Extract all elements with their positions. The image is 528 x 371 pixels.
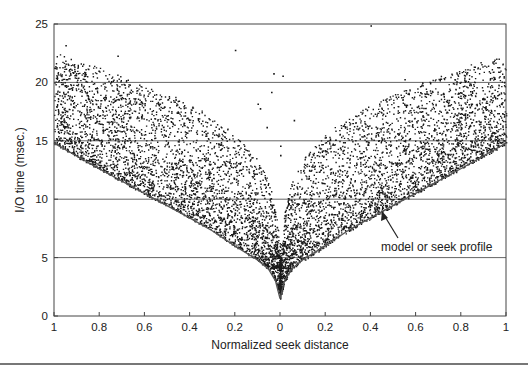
y-axis-label: I/O time (msec.)	[13, 127, 27, 212]
x-axis-ticks: 10.80.60.40.200.20.40.60.81	[51, 312, 509, 333]
x-tick-label: 0	[277, 321, 283, 333]
x-tick-label: 0.8	[91, 321, 107, 333]
horizontal-gridlines	[54, 82, 506, 257]
annotation-label: model or seek profile	[381, 240, 493, 254]
x-tick-label: 1	[503, 321, 509, 333]
x-tick-label: 0.6	[408, 321, 424, 333]
x-tick-label: 1	[51, 321, 57, 333]
y-tick-label: 20	[35, 76, 48, 88]
x-tick-label: 0.2	[227, 321, 243, 333]
y-tick-label: 25	[35, 18, 48, 30]
annotation: model or seek profile	[381, 211, 493, 254]
x-axis-label: Normalized seek distance	[211, 338, 349, 352]
x-tick-label: 0.8	[453, 321, 469, 333]
y-tick-label: 5	[42, 252, 48, 264]
y-tick-label: 0	[42, 310, 48, 322]
y-tick-label: 10	[35, 193, 48, 205]
x-tick-label: 0.6	[136, 321, 152, 333]
y-axis-ticks: 0510152025	[35, 18, 58, 322]
x-tick-label: 0.2	[317, 321, 333, 333]
scatter-chart: 10.80.60.40.200.20.40.60.81 0510152025 N…	[0, 0, 528, 371]
y-tick-label: 15	[35, 135, 48, 147]
scatter-points	[54, 25, 507, 300]
x-tick-label: 0.4	[182, 321, 199, 333]
scatter-point-cloud	[54, 25, 507, 300]
x-tick-label: 0.4	[362, 321, 379, 333]
bottom-divider-rule	[0, 363, 528, 365]
